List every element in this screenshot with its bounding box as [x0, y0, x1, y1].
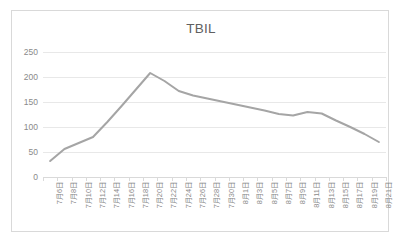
y-axis-tick-label: 250 — [24, 47, 38, 57]
series-polyline — [50, 73, 379, 161]
x-axis-tick-mark — [300, 177, 301, 181]
x-axis-tick-mark — [272, 177, 273, 181]
x-axis-tick-label: 8月15日 — [340, 182, 351, 230]
y-axis-tick-label: 200 — [24, 72, 38, 82]
x-axis-tick-mark — [286, 177, 287, 181]
x-axis-tick-label: 8月9日 — [297, 182, 308, 230]
x-axis-tick-mark — [172, 177, 173, 181]
x-axis-tick-mark — [129, 177, 130, 181]
x-axis-tick-label: 8月13日 — [326, 182, 337, 230]
x-axis-tick-label: 8月21日 — [383, 182, 394, 230]
chart-title: TBIL — [12, 21, 390, 36]
x-axis-tick-mark — [114, 177, 115, 181]
x-axis-tick-label: 7月24日 — [183, 182, 194, 230]
y-axis-tick-label: 50 — [29, 147, 38, 157]
x-axis-tick-mark — [186, 177, 187, 181]
x-axis-tick-mark — [243, 177, 244, 181]
y-axis-tick-label: 100 — [24, 122, 38, 132]
x-axis-tick-mark — [215, 177, 216, 181]
x-axis-tick-label: 7月6日 — [54, 182, 65, 230]
y-axis-tick-label: 0 — [33, 172, 38, 182]
x-axis-tick-mark — [329, 177, 330, 181]
x-axis-tick-mark — [357, 177, 358, 181]
x-axis-tick-label: 7月8日 — [68, 182, 79, 230]
x-axis-tick-mark — [200, 177, 201, 181]
x-axis-tick-label: 8月17日 — [354, 182, 365, 230]
x-axis-tick-mark — [229, 177, 230, 181]
x-axis-tick-label: 7月14日 — [111, 182, 122, 230]
x-axis-tick-label: 7月12日 — [97, 182, 108, 230]
line-series — [43, 52, 386, 177]
plot-area: 050100150200250 — [43, 52, 386, 177]
x-axis-tick-label: 7月30日 — [226, 182, 237, 230]
x-axis-tick-mark — [386, 177, 387, 181]
x-axis-tick-mark — [372, 177, 373, 181]
x-axis-tick-label: 8月19日 — [369, 182, 380, 230]
x-axis-tick-label: 7月18日 — [140, 182, 151, 230]
x-axis-tick-mark — [43, 177, 44, 181]
chart-container: TBIL 050100150200250 7月6日7月8日7月10日7月12日7… — [11, 10, 389, 232]
x-axis-tick-mark — [143, 177, 144, 181]
x-axis-tick-label: 8月1日 — [240, 182, 251, 230]
x-axis-tick-mark — [157, 177, 158, 181]
x-axis-tick-label: 7月22日 — [168, 182, 179, 230]
x-axis-tick-mark — [72, 177, 73, 181]
x-axis-tick-label: 7月26日 — [197, 182, 208, 230]
x-axis-tick-mark — [257, 177, 258, 181]
x-axis-tick-mark — [315, 177, 316, 181]
x-axis-tick-label: 8月3日 — [254, 182, 265, 230]
x-axis-tick-label: 7月16日 — [126, 182, 137, 230]
y-axis-tick-label: 150 — [24, 97, 38, 107]
x-axis-ticks — [43, 177, 386, 181]
x-axis-tick-label: 7月10日 — [83, 182, 94, 230]
x-axis-tick-label: 8月11日 — [311, 182, 322, 230]
x-axis-tick-mark — [57, 177, 58, 181]
x-axis-tick-label: 7月20日 — [154, 182, 165, 230]
x-axis-tick-mark — [86, 177, 87, 181]
x-axis-tick-label: 8月5日 — [269, 182, 280, 230]
x-axis-tick-mark — [343, 177, 344, 181]
x-axis-labels: 7月6日7月8日7月10日7月12日7月14日7月16日7月18日7月20日7月… — [43, 182, 386, 230]
x-axis-tick-label: 8月7日 — [283, 182, 294, 230]
x-axis-tick-mark — [100, 177, 101, 181]
x-axis-tick-label: 7月28日 — [211, 182, 222, 230]
